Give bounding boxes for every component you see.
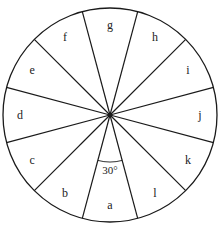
sector-label-i: i bbox=[186, 63, 190, 77]
sector-label-b: b bbox=[62, 186, 68, 200]
spoke-line bbox=[82, 12, 110, 115]
spoke-line bbox=[110, 12, 138, 115]
sector-label-c: c bbox=[29, 153, 34, 167]
center-hub bbox=[108, 113, 112, 117]
sector-label-f: f bbox=[63, 30, 67, 44]
spoke-line bbox=[34, 39, 110, 115]
sector-label-a: a bbox=[107, 198, 113, 212]
sector-label-g: g bbox=[107, 18, 113, 32]
sector-label-h: h bbox=[152, 30, 158, 44]
angle-arc bbox=[98, 160, 122, 162]
sector-label-k: k bbox=[185, 153, 191, 167]
angle-label: 30° bbox=[102, 164, 117, 176]
sector-label-e: e bbox=[29, 63, 34, 77]
spoke-line bbox=[34, 115, 110, 191]
sector-label-j: j bbox=[197, 108, 201, 122]
spoke-line bbox=[110, 115, 186, 191]
wheel-diagram: 30° abcdefghijkl bbox=[0, 0, 219, 230]
spoke-line bbox=[110, 39, 186, 115]
sector-label-l: l bbox=[153, 186, 157, 200]
sector-label-d: d bbox=[17, 108, 23, 122]
